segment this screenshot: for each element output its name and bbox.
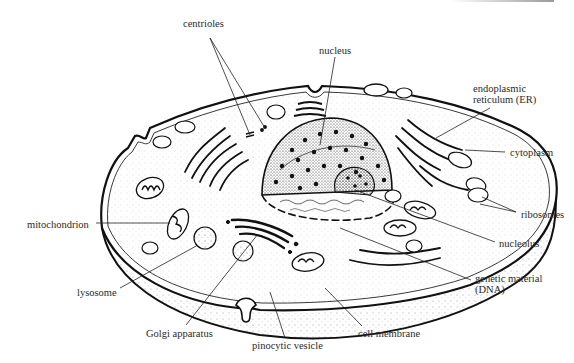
label-genetic-material: genetic material (DNA) xyxy=(475,273,542,295)
cell-illustration xyxy=(0,0,574,363)
label-golgi-apparatus: Golgi apparatus xyxy=(146,328,213,339)
label-pinocytic-vesicle: pinocytic vesicle xyxy=(252,340,323,351)
label-mitochondrion: mitochondrion xyxy=(27,219,89,230)
label-cell-membrane: cell membrane xyxy=(358,328,420,339)
label-er-line2: reticulum (ER) xyxy=(473,94,536,105)
label-genetic-material-line1: genetic material xyxy=(475,273,542,284)
cell-diagram: centrioles nucleus endoplasmic reticulum… xyxy=(0,0,574,363)
label-centrioles: centrioles xyxy=(183,18,224,29)
label-nucleolus: nucleolus xyxy=(499,238,539,249)
label-genetic-material-line2: (DNA) xyxy=(475,284,542,295)
label-er-line1: endoplasmic xyxy=(473,83,536,94)
label-lysosome: lysosome xyxy=(77,287,117,298)
label-endoplasmic-reticulum: endoplasmic reticulum (ER) xyxy=(473,83,536,105)
label-nucleus: nucleus xyxy=(319,45,351,56)
label-ribosomes: ribosomes xyxy=(521,209,564,220)
label-cytoplasm: cytoplasm xyxy=(510,147,553,158)
